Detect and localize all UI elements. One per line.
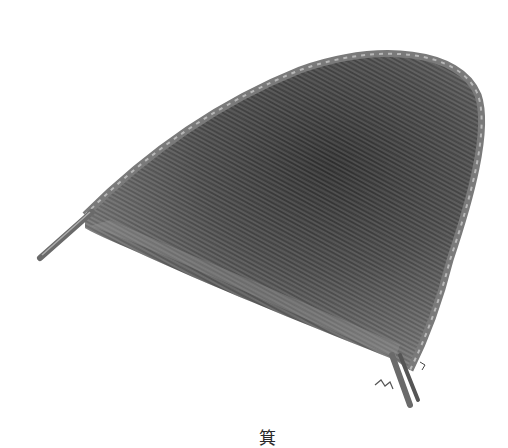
figure-caption: 箕 — [0, 424, 508, 448]
basket-body — [85, 54, 482, 370]
figure: 箕 — [0, 0, 508, 448]
left-rod — [40, 212, 92, 258]
winnowing-basket-image — [0, 0, 508, 420]
